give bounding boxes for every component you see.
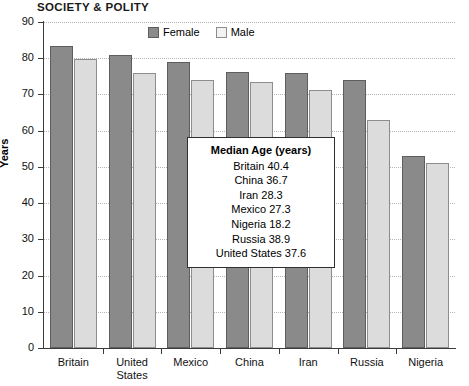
y-axis-tick-label: 80 [4,51,34,63]
x-axis-tick [338,348,339,354]
bar-britain-female [50,46,73,348]
callout-row: China 36.7 [194,173,328,188]
x-axis-tick [279,348,280,354]
x-axis-label-line: States [103,369,162,382]
median-age-callout: Median Age (years) Britain 40.4China 36.… [187,137,335,268]
x-axis-label-line: Iran [279,356,338,369]
y-axis-tick-label: 90 [4,15,34,27]
bar-nigeria-female [402,156,425,348]
bar-russia-female [343,80,366,348]
y-axis-tick-label: 50 [4,160,34,172]
x-axis-label-mexico: Mexico [161,356,220,369]
x-axis-label-china: China [220,356,279,369]
x-axis-tick [103,348,104,354]
y-axis-tick-label: 0 [4,341,34,353]
callout-row: Iran 28.3 [194,188,328,203]
callout-title: Median Age (years) [194,143,328,158]
x-axis-tick [396,348,397,354]
y-axis-tick-label: 20 [4,269,34,281]
bar-united-states-male [133,73,156,348]
x-axis-label-iran: Iran [279,356,338,369]
callout-row: Mexico 27.3 [194,202,328,217]
x-axis-label-line: Russia [338,356,397,369]
x-axis-label-line: China [220,356,279,369]
callout-row: Nigeria 18.2 [194,217,328,232]
x-axis-label-line: Mexico [161,356,220,369]
y-axis-tick-label: 60 [4,124,34,136]
y-axis-tick-label: 70 [4,87,34,99]
x-axis-label-united-states: UnitedStates [103,356,162,381]
x-axis-tick [220,348,221,354]
x-axis-label-russia: Russia [338,356,397,369]
callout-row: United States 37.6 [194,246,328,261]
section-header: SOCIETY & POLITY [37,1,149,13]
bar-britain-male [74,59,97,348]
x-axis-line [43,348,456,349]
x-axis-label-line: Britain [44,356,103,369]
x-axis-label-line: United [103,356,162,369]
x-axis-tick [161,348,162,354]
callout-row: Russia 38.9 [194,232,328,247]
y-axis-tick [38,348,44,349]
bar-nigeria-male [426,163,449,348]
y-axis-tick-label: 10 [4,305,34,317]
callout-row: Britain 40.4 [194,159,328,174]
bar-russia-male [367,120,390,348]
bar-united-states-female [109,55,132,348]
y-axis-tick-label: 30 [4,232,34,244]
bar-chart-figure: SOCIETY & POLITY FemaleMale Years 010203… [0,0,469,386]
x-axis-label-line: Nigeria [396,356,455,369]
y-axis-tick-label: 40 [4,196,34,208]
x-axis-label-nigeria: Nigeria [396,356,455,369]
x-axis-label-britain: Britain [44,356,103,369]
